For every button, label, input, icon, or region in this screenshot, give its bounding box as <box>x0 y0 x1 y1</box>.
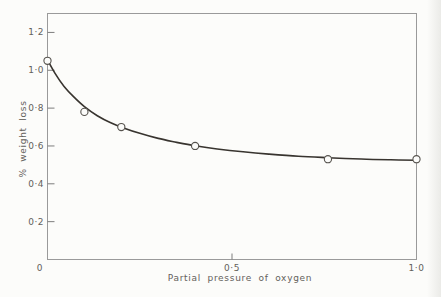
y-tick-label: 0·2 <box>28 217 44 227</box>
weight-loss-chart: 0·20·40·60·81·01·200·51·0Partial pressur… <box>0 0 441 297</box>
data-point <box>44 57 51 64</box>
data-point <box>118 123 125 130</box>
y-tick-label: 1·2 <box>28 27 44 37</box>
x-tick-label: 1·0 <box>409 263 425 273</box>
y-axis-title: % weight loss <box>18 100 28 177</box>
y-tick-label: 0·8 <box>28 103 44 113</box>
data-point <box>192 142 199 149</box>
y-tick-label: 1·0 <box>28 65 44 75</box>
scanned-figure-page: 0·20·40·60·81·01·200·51·0Partial pressur… <box>0 0 441 297</box>
data-point <box>81 108 88 115</box>
data-point <box>413 156 420 163</box>
x-tick-label: 0·5 <box>224 263 240 273</box>
x-axis-title: Partial pressure of oxygen <box>168 273 312 283</box>
fitted-curve <box>48 60 417 160</box>
y-tick-label: 0·6 <box>28 141 44 151</box>
x-tick-label: 0 <box>37 263 43 273</box>
data-point <box>324 156 331 163</box>
plot-frame <box>48 14 417 260</box>
y-tick-label: 0·4 <box>28 179 44 189</box>
